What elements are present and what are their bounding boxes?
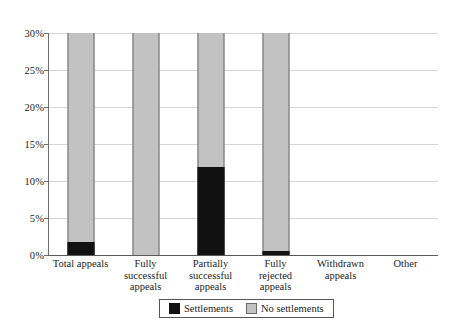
stacked-bar <box>132 33 159 255</box>
x-axis-label-line: Other <box>368 258 444 270</box>
y-axis-tick-label: 25% <box>24 65 44 76</box>
y-axis-tick-label: 5% <box>30 213 44 224</box>
bar-segment-no-settlements <box>262 33 289 251</box>
y-axis-tick-label: 10% <box>24 176 44 187</box>
legend-label: No settlements <box>261 303 324 314</box>
y-axis-line <box>48 33 49 256</box>
bar-group <box>308 33 373 255</box>
y-axis-tick-label: 20% <box>24 102 44 113</box>
y-axis-tick-label: 30% <box>24 28 44 39</box>
gray-square-swatch <box>246 303 257 314</box>
plot-area <box>48 33 438 255</box>
y-axis-tick-label: 15% <box>24 139 44 150</box>
legend-item: Settlements <box>169 303 233 314</box>
bar-group <box>373 33 438 255</box>
x-axis-label-line: appeals <box>238 281 314 293</box>
bar-segment-no-settlements <box>132 33 159 255</box>
x-axis-line <box>48 255 438 256</box>
bar-group <box>113 33 178 255</box>
bar-group <box>178 33 243 255</box>
x-axis-label-line: appeals <box>303 270 379 282</box>
chart-legend: SettlementsNo settlements <box>159 299 334 318</box>
legend-label: Settlements <box>184 303 233 314</box>
bar-segment-no-settlements <box>67 33 94 242</box>
bar-group <box>243 33 308 255</box>
stacked-bar <box>197 33 224 255</box>
stacked-bar <box>67 33 94 255</box>
y-axis: 0%5%10%15%20%25%30% <box>0 33 44 255</box>
legend-item: No settlements <box>246 303 324 314</box>
black-square-swatch <box>169 303 180 314</box>
bar-segment-settlements <box>67 242 94 255</box>
stacked-bar <box>262 33 289 255</box>
stacked-bar-chart: 0%5%10%15%20%25%30% Total appealsFullysu… <box>0 0 454 335</box>
bar-segment-no-settlements <box>197 33 224 167</box>
x-axis-labels: Total appealsFullysuccessfulappealsParti… <box>48 258 438 302</box>
x-axis-category-label: Other <box>368 258 444 270</box>
bar-segment-settlements <box>197 167 224 255</box>
bar-group <box>48 33 113 255</box>
